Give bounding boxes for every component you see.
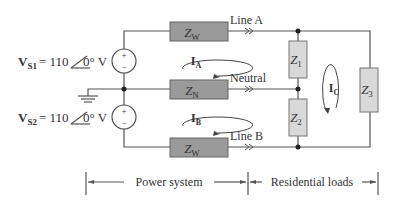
- vs1-angle: 0°V: [83, 54, 108, 69]
- loop-current-ic: IC: [323, 65, 340, 114]
- plus-sign: +: [121, 50, 126, 60]
- ground-wire: [88, 89, 124, 96]
- minus-sign: −: [121, 118, 126, 128]
- voltage-source-1: + −: [112, 49, 136, 73]
- impedance-zn: ZN: [170, 80, 228, 100]
- residential-loads-label: Residential loads: [271, 175, 354, 189]
- impedance-z1: Z1: [289, 41, 307, 78]
- impedance-z2: Z2: [289, 99, 307, 136]
- line-a-wire: [124, 31, 370, 68]
- line-b-label: Line B: [230, 129, 263, 143]
- svg-text:IA: IA: [191, 54, 202, 70]
- vs1-label: VS1= 110: [18, 54, 69, 71]
- power-system-label: Power system: [136, 175, 204, 189]
- vs2-angle: 0°V: [83, 110, 108, 125]
- wires: [88, 31, 370, 147]
- impedance-zw-bottom: ZW: [170, 138, 228, 158]
- junction-dot: [296, 87, 301, 92]
- impedance-zw-top: ZW: [170, 22, 228, 42]
- line-a-label: Line A: [230, 13, 263, 27]
- neutral-label: Neutral: [230, 71, 267, 85]
- impedance-z3: Z3: [360, 68, 378, 112]
- junction-dot: [296, 29, 301, 34]
- ground-icon: [78, 96, 98, 102]
- svg-text:IB: IB: [191, 111, 202, 127]
- voltage-source-2: + −: [112, 105, 136, 129]
- plus-sign: +: [121, 106, 126, 116]
- vs2-label: VS2= 110: [18, 110, 69, 127]
- circuit-diagram: + − + − VS1= 110 0°V VS2= 110 0°V ZW ZN …: [0, 0, 394, 205]
- minus-sign: −: [121, 62, 126, 72]
- junction-dot: [296, 145, 301, 150]
- junction-dot: [122, 87, 127, 92]
